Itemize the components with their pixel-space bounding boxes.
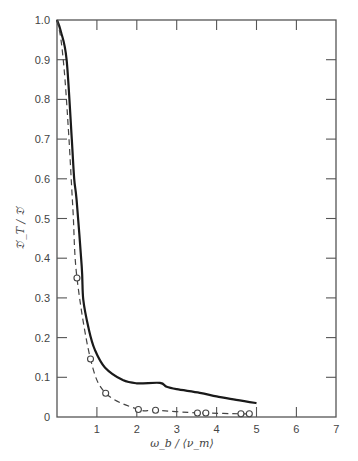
y-tick-label: 0 (44, 411, 50, 423)
data-point-circle (153, 407, 159, 413)
x-tick-label: 5 (253, 423, 259, 435)
y-tick-label: 0.7 (35, 133, 50, 145)
data-point-circle (74, 275, 80, 281)
tick-labels: 123456700.10.20.30.40.50.60.70.80.91.0 (35, 14, 340, 435)
y-tick-label: 0.8 (35, 93, 50, 105)
y-tick-label: 0.9 (35, 54, 50, 66)
solid-curve (57, 20, 257, 403)
data-point-circle (194, 410, 200, 416)
x-tick-label: 7 (333, 423, 339, 435)
y-tick-label: 0.3 (35, 292, 50, 304)
x-tick-label: 6 (293, 423, 299, 435)
data-markers (74, 275, 252, 417)
y-axis-label: 𝔇′_T / 𝔇′ (14, 205, 27, 250)
x-tick-label: 2 (134, 423, 140, 435)
y-tick-label: 1.0 (35, 14, 50, 26)
data-point-circle (203, 410, 209, 416)
x-axis-label: ω_b / ⟨ν_m⟩ (150, 437, 213, 450)
y-tick-label: 0.6 (35, 173, 50, 185)
data-point-circle (88, 356, 94, 362)
dashed-curve (57, 20, 249, 414)
y-tick-label: 0.2 (35, 332, 50, 344)
data-point-circle (135, 406, 141, 412)
y-tick-label: 0.1 (35, 371, 50, 383)
y-tick-label: 0.4 (35, 252, 50, 264)
data-point-circle (103, 390, 109, 396)
y-tick-label: 0.5 (35, 213, 50, 225)
x-tick-label: 3 (174, 423, 180, 435)
x-tick-label: 1 (94, 423, 100, 435)
data-point-circle (246, 411, 252, 417)
x-tick-label: 4 (214, 423, 220, 435)
data-point-circle (238, 411, 244, 417)
chart: 123456700.10.20.30.40.50.60.70.80.91.0 ω… (0, 0, 358, 461)
